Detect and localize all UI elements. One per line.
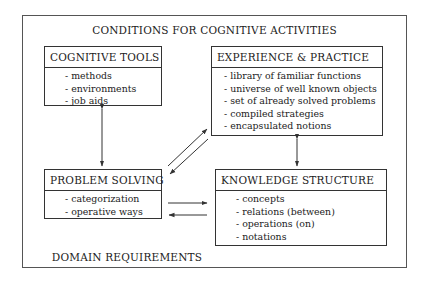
- connector-arrows: [0, 0, 427, 282]
- arrow-problem-to-experience: [168, 129, 207, 166]
- arrow-experience-to-problem: [170, 139, 208, 174]
